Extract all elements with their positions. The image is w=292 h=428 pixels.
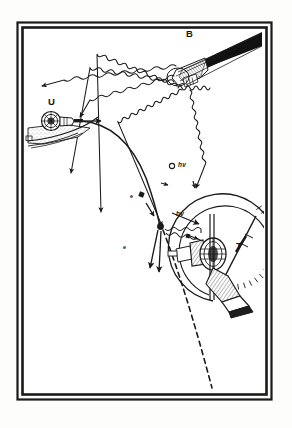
scatter-vertex [157, 223, 164, 230]
physics-diagram-svg [0, 0, 292, 428]
label-photon-2: hv [176, 210, 184, 217]
label-photon-1: hv [178, 161, 186, 168]
label-source-b: B [186, 28, 193, 39]
label-electron-1: e [130, 193, 133, 199]
label-electron-2: e [123, 244, 126, 250]
label-emitter-u: U [48, 96, 55, 107]
photon-marker-circle [169, 163, 174, 168]
figure-frame [18, 23, 272, 400]
figure-canvas: B U T hv hv e e [0, 0, 292, 428]
label-detector-t: T [236, 240, 242, 251]
